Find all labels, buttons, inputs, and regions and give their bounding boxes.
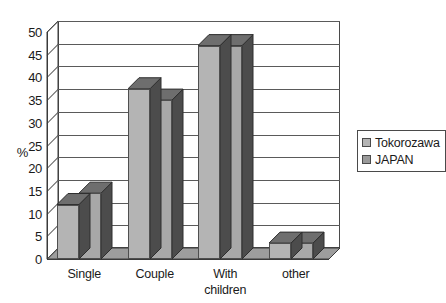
- bar-front-face: [198, 46, 220, 259]
- legend-item-label: Tokorozawa: [375, 136, 440, 150]
- legend-item: JAPAN: [362, 151, 440, 168]
- y-tick-label: 50: [16, 25, 42, 40]
- x-axis-category-label: other: [246, 266, 346, 282]
- y-tick-label: 10: [16, 206, 42, 221]
- legend-swatch-icon: [362, 138, 371, 147]
- y-tick-label: 30: [16, 115, 42, 130]
- y-tick-label: 35: [16, 93, 42, 108]
- y-tick-label: 20: [16, 161, 42, 176]
- y-tick-label: 15: [16, 183, 42, 198]
- legend-item-label: JAPAN: [375, 153, 413, 167]
- legend: TokorozawaJAPAN: [357, 130, 446, 172]
- bar: [57, 0, 79, 303]
- legend-swatch-icon: [362, 155, 371, 164]
- y-axis-ticks: 05101520253035404550: [12, 0, 42, 303]
- bar: [269, 0, 291, 303]
- bar: [128, 0, 150, 303]
- bar-front-face: [57, 205, 79, 259]
- bar-chart: % 05101520253035404550 SingleCoupleWith …: [0, 0, 446, 303]
- y-axis-line: [47, 32, 48, 260]
- legend-item: Tokorozawa: [362, 134, 440, 151]
- bar: [198, 0, 220, 303]
- bar-front-face: [128, 89, 150, 259]
- y-tick-label: 0: [16, 252, 42, 267]
- y-tick-label: 45: [16, 47, 42, 62]
- y-tick-label: 40: [16, 70, 42, 85]
- y-tick-label: 25: [16, 138, 42, 153]
- bar-front-face: [269, 243, 291, 259]
- y-tick-label: 5: [16, 229, 42, 244]
